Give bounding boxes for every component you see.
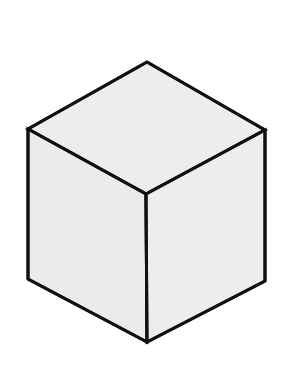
cube-edge-vertical-center [146, 194, 147, 342]
image-canvas [0, 0, 289, 389]
isometric-cube-figure [0, 0, 289, 389]
